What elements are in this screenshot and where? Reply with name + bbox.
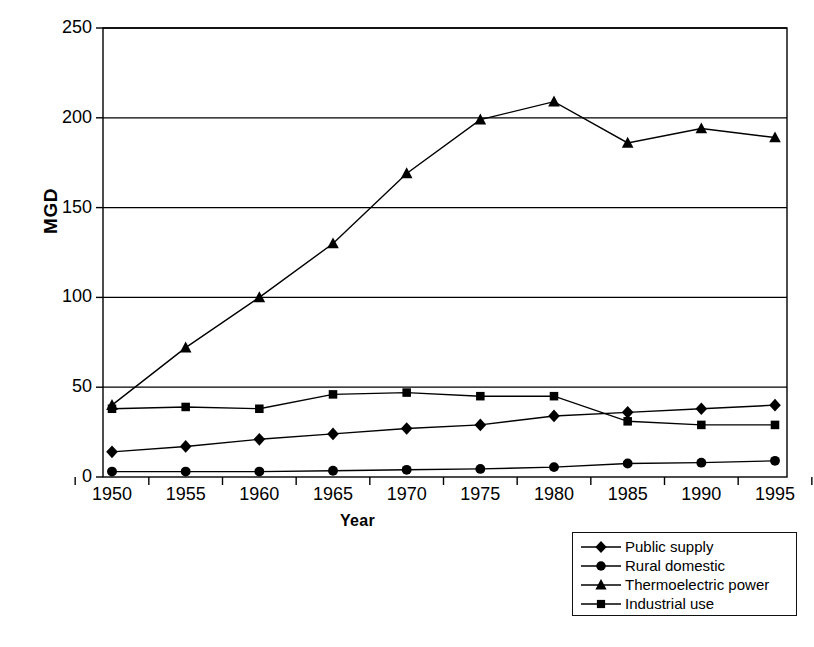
data-point-circle (254, 467, 264, 477)
data-point-circle (770, 456, 780, 466)
series-2 (106, 96, 781, 410)
data-point-diamond (254, 433, 266, 446)
data-point-square (597, 600, 605, 608)
chart-figure: MGD Year 050100150200250 195019551960196… (0, 0, 814, 647)
legend-label: Public supply (623, 538, 713, 555)
legend-label: Rural domestic (623, 557, 725, 574)
data-point-square (697, 421, 706, 430)
data-point-circle (402, 465, 412, 475)
legend: Public supplyRural domesticThermoelectri… (572, 532, 797, 616)
data-point-circle (475, 464, 485, 474)
data-point-square (108, 404, 117, 413)
data-point-circle (107, 467, 117, 477)
data-point-diamond (548, 410, 560, 423)
circle-marker-icon (579, 556, 623, 575)
series-1 (107, 456, 780, 477)
data-point-diamond (327, 428, 339, 441)
data-point-triangle (180, 342, 192, 353)
data-point-triangle (254, 291, 266, 302)
data-point-square (623, 417, 632, 426)
data-point-circle (596, 561, 606, 571)
data-point-square (402, 388, 411, 397)
data-point-diamond (696, 402, 708, 415)
legend-item-3: Industrial use (579, 594, 790, 613)
data-point-diamond (106, 446, 118, 459)
diamond-marker-icon (579, 537, 623, 556)
data-point-diamond (595, 541, 606, 553)
legend-item-0: Public supply (579, 537, 790, 556)
data-point-diamond (401, 422, 413, 435)
data-point-square (181, 403, 190, 412)
data-point-circle (181, 467, 191, 477)
triangle-marker-icon (579, 575, 623, 594)
data-point-circle (549, 462, 559, 472)
data-series-layer (106, 96, 781, 477)
square-marker-icon (579, 594, 623, 613)
data-point-square (476, 392, 485, 401)
axis-tick-marks (75, 28, 812, 485)
data-point-square (255, 404, 264, 413)
data-point-square (771, 421, 780, 430)
series-3 (108, 388, 780, 429)
legend-item-1: Rural domestic (579, 556, 790, 575)
legend-label: Industrial use (623, 595, 714, 612)
data-point-circle (696, 458, 706, 468)
data-point-square (329, 390, 338, 399)
data-point-triangle (401, 167, 413, 178)
data-point-circle (328, 466, 338, 476)
data-point-diamond (180, 440, 192, 453)
data-point-triangle (696, 122, 708, 133)
data-point-square (550, 392, 559, 401)
legend-label: Thermoelectric power (623, 576, 769, 593)
data-point-diamond (622, 406, 634, 419)
legend-item-2: Thermoelectric power (579, 575, 790, 594)
data-point-diamond (475, 419, 487, 432)
data-point-diamond (769, 399, 781, 412)
data-point-triangle (548, 96, 560, 107)
data-point-circle (623, 459, 633, 469)
